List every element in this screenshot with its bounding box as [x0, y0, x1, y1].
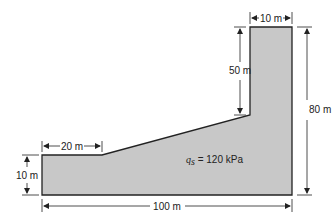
footing-shape: [42, 27, 292, 195]
footing-diagram: 10 m 50 m 80 m 20 m 10 m 100 m: [0, 0, 332, 223]
label-left-height: 10 m: [16, 170, 38, 181]
label-total-height: 80 m: [309, 104, 331, 115]
label-left-shelf: 20 m: [61, 141, 83, 152]
label-upper-height: 50 m: [229, 65, 251, 76]
label-top-width: 10 m: [260, 13, 282, 24]
label-total-width: 100 m: [153, 201, 181, 212]
